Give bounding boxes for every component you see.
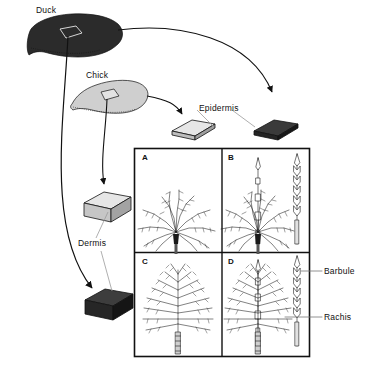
label-chick: Chick	[86, 70, 108, 80]
panel-letter-D: D	[228, 257, 234, 266]
label-dermis: Dermis	[78, 238, 106, 248]
dermis-chick-block	[84, 192, 131, 222]
label-duck: Duck	[36, 5, 56, 15]
leader-dermis-duck	[101, 251, 112, 291]
duck-skin-patch	[27, 14, 122, 57]
label-rachis: Rachis	[324, 312, 351, 322]
dermis-duck-block	[85, 289, 133, 320]
arrow-duck-to-epidermis	[118, 28, 272, 92]
chick-skin-patch	[71, 80, 148, 113]
epidermis-chick-slab	[172, 120, 215, 140]
figure-canvas: Duck Chick Epidermis Dermis Barbule Rach…	[0, 0, 365, 375]
feather-panel-box	[135, 149, 310, 357]
panel-letter-A: A	[142, 153, 148, 162]
panel-letter-C: C	[142, 257, 148, 266]
panel-letter-B: B	[228, 153, 234, 162]
epidermis-duck-slab	[254, 120, 298, 140]
arrow-chick-to-epidermis	[147, 96, 182, 114]
label-epidermis: Epidermis	[199, 103, 239, 113]
diagram-graphics	[0, 0, 365, 375]
label-barbule: Barbule	[324, 266, 355, 276]
